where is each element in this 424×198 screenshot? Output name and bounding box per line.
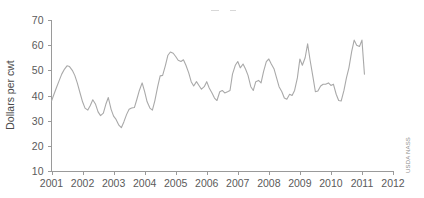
y-tick-label: 60	[32, 39, 44, 51]
clipped-mark	[211, 10, 219, 11]
line-chart: 10203040506070 2001200220032004200520062…	[0, 0, 424, 198]
x-tick-label: 2009	[288, 177, 312, 189]
y-tick-label: 10	[32, 165, 44, 177]
x-tick-label: 2001	[40, 177, 64, 189]
x-tick-label: 2003	[102, 177, 126, 189]
y-tick-label: 40	[32, 90, 44, 102]
y-tick-label: 30	[32, 115, 44, 127]
y-tick-label: 70	[32, 14, 44, 26]
top-artifacts	[211, 10, 236, 11]
source-credit-label: USDA NASS	[405, 137, 411, 173]
clipped-mark	[230, 10, 236, 11]
x-tick-label: 2007	[226, 177, 250, 189]
y-tick-label: 50	[32, 64, 44, 76]
y-axis-title: Dollars per cwt	[4, 60, 16, 130]
x-tick-label: 2010	[319, 177, 343, 189]
x-tick-label: 2004	[133, 177, 157, 189]
x-tick-label: 2002	[71, 177, 95, 189]
x-tick-label: 2005	[164, 177, 188, 189]
x-tick-label: 2006	[195, 177, 219, 189]
x-tick-label: 2012	[381, 177, 405, 189]
x-tick-label: 2011	[351, 177, 374, 189]
chart-container: 10203040506070 2001200220032004200520062…	[0, 0, 424, 198]
x-tick-label: 2008	[257, 177, 281, 189]
y-tick-label: 20	[32, 140, 44, 152]
x-axis-ticks: 2001200220032004200520062007200820092010…	[40, 171, 405, 189]
data-series-line	[52, 40, 365, 128]
y-axis-ticks: 10203040506070	[32, 14, 52, 177]
